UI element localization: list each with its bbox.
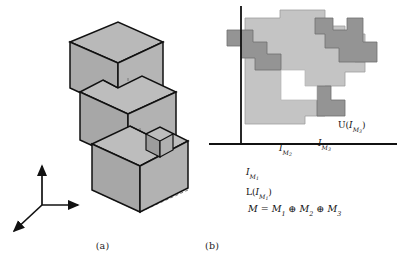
equation-term3-sub: 3 [337,210,341,218]
subcaption-a: (a) [0,240,205,251]
label-IM2-sub: M [283,149,289,156]
label-region-I-M3: IM3 [318,139,331,148]
panel-a-stacked-cubes: (a) [0,0,205,270]
equation-lhs: M [248,203,258,214]
equation-term1-base: M [272,203,282,214]
panel-b-staircase-diagram: U(IM3) IM3 IM2 IM1 L(IM1) (b) [205,0,402,270]
label-IM1-sub: M [250,173,256,180]
label-IM1-sub2: 1 [256,176,259,181]
equation-term2-base: M [300,203,310,214]
label-region-I-M1: IM1 [246,168,259,177]
label-upper-bound-U-I-M3: U(IM3) [338,121,365,130]
label-U-fn: U [338,120,346,130]
equation-op1: ⊕ [289,203,297,214]
cube-bottom [92,126,188,212]
axis-arrow-down-left [14,205,42,231]
stacked-cubes-illustration [0,0,205,240]
label-IM3-sub: M [322,144,328,151]
figure-root: (a) U(IM3) IM3 IM2 [0,0,402,270]
label-region-I-M2: IM2 [279,144,292,153]
label-IM3-sub2: 3 [328,147,331,152]
subcaption-b: (b) [205,240,402,251]
region-I-M3-dark-lower [317,86,345,116]
equation-equals: = [261,203,269,214]
equation-direct-sum: M = M1 ⊕ M2 ⊕ M3 [248,204,341,214]
equation-term3-base: M [327,203,337,214]
label-lower-bound-L-I-M1: L(IM1) [246,188,272,197]
label-U-arg-sub2: 3 [359,129,362,134]
equation-term1-sub: 1 [282,210,286,218]
label-IM2-sub2: 2 [289,152,292,157]
coordinate-axis-triad [14,166,78,231]
equation-term2-sub: 2 [309,210,313,218]
label-L-arg-sub2: 1 [265,196,268,201]
